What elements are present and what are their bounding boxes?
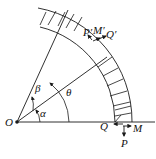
radial-line-theta bbox=[17, 57, 107, 122]
label-Q: Q bbox=[100, 120, 108, 132]
label-alpha: α bbox=[40, 107, 46, 119]
label-Q-prime: Q′ bbox=[106, 28, 117, 40]
beta-arc bbox=[32, 97, 33, 111]
label-P: P bbox=[120, 137, 128, 149]
arch-section-diagram: O α β θ P′ M′ Q′ Q M P bbox=[0, 0, 156, 159]
inner-arc bbox=[40, 27, 115, 122]
radial-line-alpha-beta bbox=[17, 10, 68, 122]
arrow-Q-prime bbox=[96, 36, 106, 40]
label-theta: θ bbox=[66, 86, 72, 98]
label-M-prime: M′ bbox=[92, 24, 105, 36]
origin-point bbox=[15, 120, 19, 124]
label-beta: β bbox=[34, 82, 41, 94]
label-M: M bbox=[132, 122, 143, 134]
upper-hatched-section bbox=[40, 11, 82, 31]
label-P-prime: P′ bbox=[82, 26, 93, 38]
label-origin: O bbox=[5, 116, 13, 128]
